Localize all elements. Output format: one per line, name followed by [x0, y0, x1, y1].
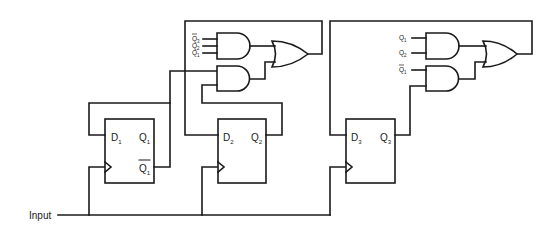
svg-text:Q1: Q1: [399, 66, 407, 75]
and-gate-2b: [426, 66, 459, 91]
ff1-d-label: D: [111, 132, 118, 143]
input-label: Input: [29, 210, 51, 221]
svg-text:Q2: Q2: [399, 49, 407, 58]
ff3-d-label: D: [351, 132, 358, 143]
and-gate-1a: [217, 33, 250, 59]
flip-flop-3: D3 Q3: [346, 119, 395, 183]
or-gate-1: [272, 41, 308, 67]
svg-text:Q1: Q1: [399, 34, 407, 43]
flip-flop-2: D2 Q2: [218, 119, 266, 183]
and-gate-2a: [426, 33, 459, 59]
input-line: Input: [29, 167, 346, 221]
and-gate-1b: [217, 66, 249, 91]
logic-block-1: Q3 Q2 Q1: [185, 21, 322, 135]
ff2-d-label: D: [223, 132, 230, 143]
flip-flop-1: D1 Q1 Q1: [105, 119, 154, 183]
synchronous-counter-diagram: Input D1 Q1 Q1 D2 Q2 D3 Q3: [0, 0, 558, 234]
logic-block-2: Q1 Q2 Q1: [330, 21, 532, 135]
or-gate-2: [483, 41, 517, 67]
